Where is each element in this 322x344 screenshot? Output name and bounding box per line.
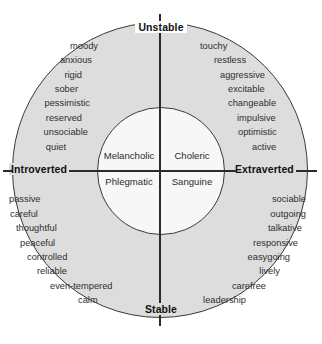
axis-label-stable: Stable bbox=[0, 303, 322, 315]
trait-word: careful bbox=[10, 209, 38, 219]
trait-word: anxious bbox=[26, 55, 92, 65]
extraverted-label-dash-right bbox=[302, 170, 317, 172]
temperament-sanguine: Sanguine bbox=[163, 176, 221, 187]
introverted-label-dash-right bbox=[78, 170, 87, 172]
axis-label-stable-text: Stable bbox=[142, 303, 180, 315]
axis-label-introverted: Introverted bbox=[9, 163, 69, 175]
extraverted-label-dash-left bbox=[228, 170, 237, 172]
trait-word: easygoing bbox=[220, 252, 290, 262]
axis-label-introverted-text: Introverted bbox=[9, 163, 69, 175]
axis-label-unstable: Unstable bbox=[0, 21, 322, 33]
trait-word: rigid bbox=[20, 70, 82, 80]
trait-word: peaceful bbox=[20, 238, 55, 248]
trait-word: aggressive bbox=[220, 70, 265, 80]
trait-word: optimistic bbox=[238, 127, 277, 137]
trait-word: even-tempered bbox=[50, 281, 113, 291]
trait-word: impulsive bbox=[237, 113, 276, 123]
trait-word: sociable bbox=[238, 194, 306, 204]
trait-word: quiet bbox=[8, 142, 66, 152]
personality-circumplex-diagram: Unstable Stable Introverted Extraverted … bbox=[0, 0, 322, 344]
axis-label-unstable-text: Unstable bbox=[135, 21, 186, 33]
temperament-melancholic: Melancholic bbox=[100, 150, 158, 161]
trait-word: pessimistic bbox=[12, 98, 90, 108]
trait-word: carefree bbox=[196, 281, 266, 291]
axis-label-extraverted-text: Extraverted bbox=[233, 163, 296, 175]
trait-word: thoughtful bbox=[16, 223, 57, 233]
trait-word: lively bbox=[218, 266, 280, 276]
trait-word: changeable bbox=[228, 98, 276, 108]
trait-word: talkative bbox=[234, 223, 302, 233]
trait-word: sober bbox=[16, 84, 78, 94]
trait-word: outgoing bbox=[238, 209, 306, 219]
trait-word: active bbox=[252, 142, 276, 152]
axis-label-extraverted: Extraverted bbox=[233, 163, 296, 175]
trait-word: reserved bbox=[10, 113, 82, 123]
trait-word: passive bbox=[9, 194, 41, 204]
trait-word: responsive bbox=[224, 238, 298, 248]
trait-word: restless bbox=[214, 55, 246, 65]
introverted-label-dash-left bbox=[4, 170, 12, 172]
trait-word: reliable bbox=[37, 266, 67, 276]
trait-word: excitable bbox=[228, 84, 265, 94]
temperament-phlegmatic: Phlegmatic bbox=[100, 176, 158, 187]
temperament-choleric: Choleric bbox=[163, 150, 221, 161]
trait-word: touchy bbox=[200, 41, 227, 51]
axis-tick-bottom bbox=[159, 317, 161, 326]
trait-word: controlled bbox=[27, 252, 67, 262]
trait-word: unsociable bbox=[8, 127, 88, 137]
trait-word: moody bbox=[36, 41, 98, 51]
